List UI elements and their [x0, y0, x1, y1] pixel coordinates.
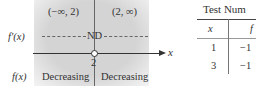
column-header-f: f	[250, 23, 253, 34]
table-column-divider	[228, 19, 229, 74]
table-top-rule	[197, 19, 256, 20]
dashed-line-left	[42, 36, 86, 37]
not-defined-mark: ND	[87, 30, 102, 41]
interval-right-label: (2, ∞)	[112, 6, 137, 17]
interval-left-label: (−∞, 2)	[48, 6, 79, 17]
behavior-left: Decreasing	[42, 71, 89, 82]
critical-value-divider	[94, 0, 95, 86]
behavior-right: Decreasing	[101, 71, 148, 82]
table-cell: 3	[211, 60, 216, 71]
x-axis-arrow-icon	[159, 50, 166, 56]
table-cell: −1	[240, 60, 251, 71]
table-header-rule	[197, 38, 256, 39]
open-circle-icon	[91, 50, 98, 57]
x-axis-label: x	[168, 46, 173, 58]
table-cell: −1	[240, 42, 251, 53]
derivative-row-label: f′(x)	[8, 31, 25, 42]
table-title: Test Num	[203, 3, 246, 15]
function-row-label: f(x)	[12, 71, 27, 82]
critical-value-label: 2	[91, 57, 96, 68]
table-cell: 1	[211, 42, 216, 53]
dashed-line-right	[104, 36, 148, 37]
column-header-x: x	[208, 23, 213, 34]
